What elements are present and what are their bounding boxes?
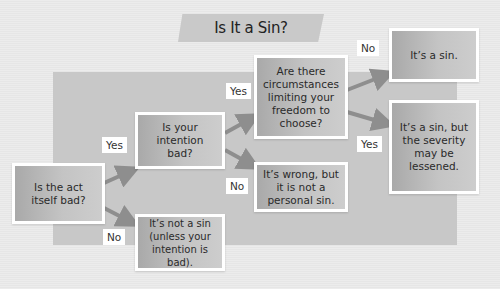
node-not-sin: It’s not a sin (unless your intention is… [135, 214, 225, 271]
label-circ-no: No [357, 40, 379, 56]
arrow-intention-yes [225, 117, 254, 133]
node-circumstances: Are there circumstances limiting your fr… [254, 55, 348, 139]
node-sin-lessened: It’s a sin, but the severity may be less… [389, 100, 479, 194]
arrow-intention-no [225, 150, 254, 166]
label-intention-yes: Yes [226, 83, 251, 99]
node-intention-bad: Is your intention bad? [135, 112, 225, 169]
node-act-bad: Is the act itself bad? [12, 163, 105, 224]
arrow-circ-yes [347, 112, 388, 124]
node-its-sin: It’s a sin. [389, 28, 479, 82]
arrow-act-yes [104, 170, 133, 183]
arrow-circ-no [347, 74, 388, 90]
label-act-yes: Yes [102, 137, 127, 153]
arrow-act-no [104, 208, 133, 223]
label-intention-no: No [226, 178, 248, 194]
label-circ-yes: Yes [357, 136, 382, 152]
node-wrong-not-personal: It’s wrong, but it is not a personal sin… [254, 162, 348, 212]
label-act-no: No [103, 229, 125, 245]
